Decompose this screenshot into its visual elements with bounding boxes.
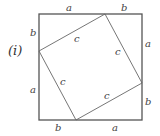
outer-square <box>39 14 142 120</box>
label-inner-top-c: c <box>74 33 80 44</box>
label-right-b: b <box>145 96 151 107</box>
label-top-a: a <box>66 2 72 13</box>
pythagoras-diagram: (i) a b a b b a b a c c c c <box>0 0 160 136</box>
label-inner-left-c: c <box>60 76 66 87</box>
label-right-a: a <box>145 38 151 49</box>
label-left-b: b <box>30 27 36 38</box>
inner-square <box>39 14 142 120</box>
label-left-a: a <box>30 84 36 95</box>
label-inner-right-c: c <box>115 46 121 57</box>
figure-label: (i) <box>8 43 22 58</box>
label-bottom-a: a <box>112 122 118 133</box>
label-top-b: b <box>121 2 127 13</box>
label-inner-bottom-c: c <box>104 90 110 101</box>
label-bottom-b: b <box>55 122 61 133</box>
